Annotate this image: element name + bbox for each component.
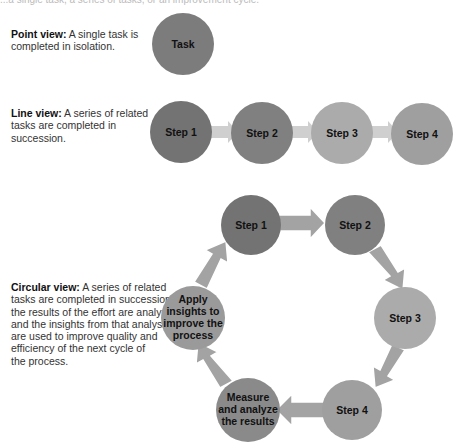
svg-text:Apply: Apply (178, 293, 207, 305)
task-node-label: Task (171, 38, 194, 50)
cycle-arrow-icon (373, 344, 405, 388)
cycle-arrow-icon (276, 394, 325, 426)
line-step-1-label: Step 1 (165, 126, 197, 138)
cycle-step-1-label: Step 1 (235, 219, 267, 231)
diagram-canvas: Task Step 1 Step 2 Step 3 Step 4 (0, 0, 456, 442)
cycle-step-4-label: Step 4 (336, 404, 368, 416)
line-step-4-label: Step 4 (406, 128, 438, 140)
svg-text:insights to: insights to (166, 305, 219, 317)
measure-analyze-label: Measure and analyze the results (218, 391, 278, 427)
svg-text:improve the: improve the (163, 317, 223, 329)
svg-text:and analyze: and analyze (218, 403, 278, 415)
cycle-step-3-label: Step 3 (389, 312, 421, 324)
point-view-diagram: Task (152, 13, 214, 75)
cycle-arrow-icon (275, 207, 325, 239)
svg-text:the results: the results (221, 415, 274, 427)
line-step-3-label: Step 3 (326, 127, 358, 139)
cycle-arrow-icon (368, 245, 405, 290)
cycle-step-2-label: Step 2 (339, 219, 371, 231)
svg-text:process: process (173, 329, 213, 341)
circular-view-diagram: Step 1 Step 2 Step 3 Step 4 Measure and … (161, 195, 436, 442)
cycle-arrow-icon (196, 342, 233, 388)
line-step-2-label: Step 2 (246, 127, 278, 139)
svg-text:Measure: Measure (227, 391, 270, 403)
cycle-arrow-icon (194, 241, 228, 289)
line-view-diagram: Step 1 Step 2 Step 3 Step 4 (150, 101, 453, 165)
